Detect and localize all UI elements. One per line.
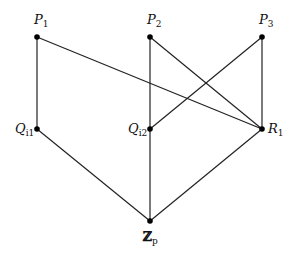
label-Q11: Qi1: [15, 122, 34, 138]
label-R1: R1: [268, 122, 284, 138]
label-P2: P2: [147, 13, 161, 29]
node-P3: [259, 34, 265, 40]
node-Q11: [34, 126, 40, 132]
label-P1: P1: [34, 13, 48, 29]
edge-Q11-Zp: [37, 129, 150, 221]
diagram-edges: [0, 0, 297, 254]
hasse-diagram: P1P2P3Qi1Qi2R1ℤp: [0, 0, 297, 254]
node-Q12: [147, 126, 153, 132]
label-Zp: ℤp: [143, 230, 158, 246]
node-Zp: [147, 218, 153, 224]
node-P2: [147, 34, 153, 40]
node-P1: [34, 34, 40, 40]
label-P3: P3: [259, 13, 273, 29]
label-Q12: Qi2: [128, 122, 147, 138]
node-R1: [259, 126, 265, 132]
edge-R1-Zp: [150, 129, 262, 221]
